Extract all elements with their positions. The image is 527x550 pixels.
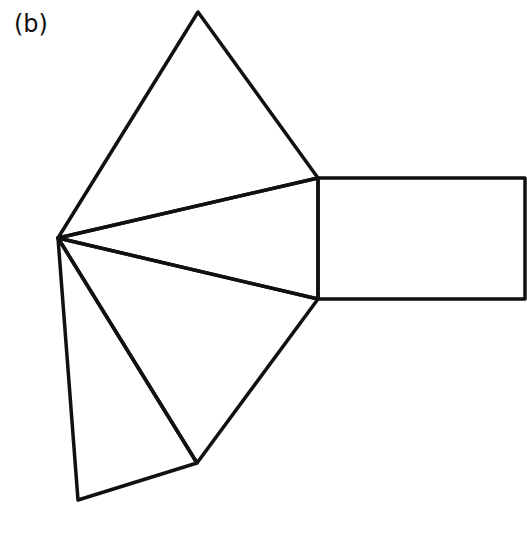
bottom-triangle (58, 238, 197, 500)
top-triangle (58, 12, 318, 238)
lower-triangle (58, 238, 318, 463)
middle-triangle (58, 178, 318, 299)
rectangle-face (318, 178, 525, 299)
net-diagram (0, 0, 527, 550)
